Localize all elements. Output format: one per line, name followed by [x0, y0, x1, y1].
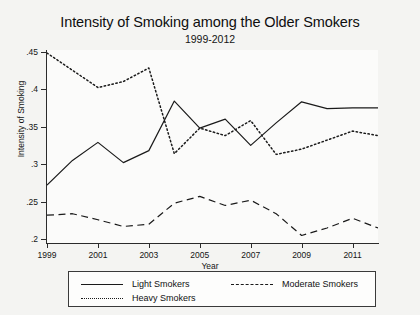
y-tick-label: .45 [16, 47, 38, 57]
legend-swatch-dashed-icon [229, 279, 275, 289]
legend-item-heavy-smokers[interactable]: Heavy Smokers [79, 291, 196, 305]
x-axis-line [46, 243, 379, 244]
x-tick-mark [251, 243, 252, 248]
y-tick-mark [41, 164, 46, 165]
x-tick-mark [98, 243, 99, 248]
x-tick-label: 2001 [78, 250, 118, 260]
y-tick-label: .2 [16, 234, 38, 244]
y-tick-mark [41, 202, 46, 203]
chart-legend: Light SmokersModerate SmokersHeavy Smoke… [68, 271, 376, 307]
x-tick-label: 2003 [129, 250, 169, 260]
chart-title: Intensity of Smoking among the Older Smo… [0, 14, 420, 30]
x-tick-label: 2007 [231, 250, 271, 260]
y-axis-line [46, 50, 47, 244]
x-tick-mark [353, 243, 354, 248]
legend-label: Light Smokers [132, 279, 190, 289]
series-line-heavy-smokers [47, 53, 378, 154]
legend-swatch-dotted-icon [79, 293, 125, 303]
chart-figure: Intensity of Smoking among the Older Smo… [0, 0, 420, 315]
x-tick-mark [302, 243, 303, 248]
x-tick-mark [47, 243, 48, 248]
x-tick-mark [200, 243, 201, 248]
legend-label: Heavy Smokers [132, 293, 196, 303]
y-axis-title: Intensity of Smoking [16, 64, 26, 174]
y-tick-label: .25 [16, 197, 38, 207]
chart-subtitle: 1999-2012 [0, 33, 420, 45]
x-tick-label: 1999 [27, 250, 67, 260]
legend-item-moderate-smokers[interactable]: Moderate Smokers [229, 277, 358, 291]
x-axis-title: Year [0, 261, 420, 271]
y-tick-mark [41, 239, 46, 240]
x-tick-label: 2005 [180, 250, 220, 260]
legend-item-light-smokers[interactable]: Light Smokers [79, 277, 190, 291]
x-tick-label: 2009 [282, 250, 322, 260]
x-tick-label: 2011 [333, 250, 373, 260]
series-lines [47, 50, 378, 243]
y-tick-mark [41, 127, 46, 128]
series-line-moderate-smokers [47, 196, 378, 235]
legend-swatch-solid-icon [79, 279, 125, 289]
y-tick-mark [41, 89, 46, 90]
legend-label: Moderate Smokers [282, 279, 358, 289]
y-tick-mark [41, 52, 46, 53]
series-line-light-smokers [47, 101, 378, 185]
plot-area [47, 50, 378, 243]
x-tick-mark [149, 243, 150, 248]
